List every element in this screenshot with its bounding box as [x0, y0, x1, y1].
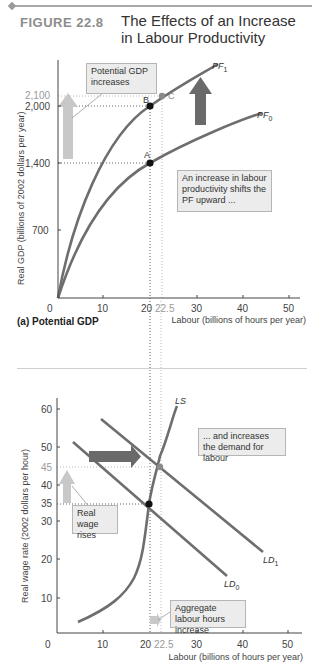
x-axis-title-b: Labour (billions of hours per year)	[168, 652, 303, 662]
equilibrium-point-1	[157, 464, 163, 470]
point-a-label: A	[144, 150, 150, 160]
y-tick-1400: 1,400	[25, 158, 50, 169]
y-axis-title-a: Real GDP (billions of 2002 dollars per y…	[16, 112, 26, 285]
y-tick-2000: 2,000	[25, 101, 50, 112]
y-tick-700: 700	[32, 225, 49, 236]
point-b-label: B	[143, 95, 149, 105]
y-tick-2100: 2,100	[25, 90, 50, 101]
x-tick-20-b: 20	[140, 639, 152, 650]
callout-hours: Aggregate labour hours increase	[170, 600, 246, 628]
callout-potential-gdp: Potential GDP increases	[86, 63, 157, 94]
x-tick-22-5-b: 22.5	[154, 639, 174, 650]
x-tick-40: 40	[237, 303, 249, 314]
x-tick-10-b: 10	[97, 639, 109, 650]
point-a	[146, 159, 153, 166]
ls-label: LS	[175, 396, 186, 406]
x-tick-50: 50	[283, 303, 295, 314]
y-tick-35: 35	[41, 498, 53, 509]
arrow-right-light-icon	[150, 613, 161, 627]
y-tick-50: 50	[41, 442, 53, 453]
y-axis-title-b: Real wage rate (2002 dollars per hour)	[20, 449, 30, 603]
y-tick-40: 40	[41, 480, 53, 491]
point-c-label: C	[168, 91, 175, 101]
x-tick-0: 0	[47, 303, 53, 314]
callout-leader-hours	[158, 612, 170, 620]
callout-demand: ... and increases the demand for labour	[198, 428, 286, 456]
x-tick-0-b: 0	[45, 639, 51, 650]
y-tick-20: 20	[41, 554, 53, 565]
x-tick-22-5: 22.5	[155, 303, 175, 314]
y-tick-45: 45	[41, 462, 53, 473]
x-tick-20: 20	[141, 303, 153, 314]
ld1-label: LD1	[263, 555, 279, 567]
pf0-label: PF0	[257, 110, 273, 122]
pf1-label: PF1	[212, 61, 228, 73]
equilibrium-point-0	[145, 500, 152, 507]
x-tick-30-b: 30	[191, 639, 203, 650]
x-tick-30: 30	[191, 303, 203, 314]
panel-a-label: (a) Potential GDP	[17, 316, 99, 327]
panel-separator	[17, 368, 307, 369]
arrow-right-dark-icon	[89, 445, 141, 468]
y-tick-60: 60	[41, 404, 53, 415]
callout-productivity: An increase in labour productivity shift…	[177, 170, 272, 212]
arrow-up-light-icon	[58, 93, 78, 159]
x-tick-10: 10	[97, 303, 109, 314]
y-tick-30: 30	[41, 516, 53, 527]
x-tick-40-b: 40	[237, 639, 249, 650]
callout-wage: Real wage rises	[72, 505, 118, 534]
arrow-up-dark-icon	[189, 77, 212, 125]
ld0-label: LD0	[224, 579, 240, 591]
x-tick-50-b: 50	[282, 639, 294, 650]
figure-canvas: A B C PF1 PF0 700 1,400 2,000 2,100 0 10…	[0, 0, 318, 671]
x-axis-title-a: Labour (billions of hours per year)	[171, 315, 306, 325]
point-c	[159, 93, 165, 99]
y-tick-10: 10	[41, 593, 53, 604]
